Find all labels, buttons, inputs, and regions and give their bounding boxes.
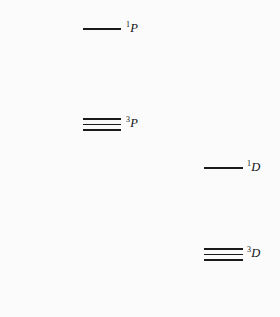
level-line — [83, 129, 121, 131]
term-symbol-label-singlet-p: 1P — [126, 22, 138, 35]
level-line — [83, 118, 121, 120]
term-symbol-label-triplet-p: 3P — [126, 117, 138, 130]
term-symbol-label-triplet-d: 3D — [247, 247, 260, 260]
term-symbol-label-singlet-d: 1D — [247, 161, 260, 174]
level-line — [83, 28, 121, 30]
term-orbital-letter: D — [251, 246, 260, 260]
term-orbital-letter: D — [251, 160, 260, 174]
level-line — [204, 254, 243, 256]
level-line — [204, 248, 243, 250]
level-line — [83, 124, 121, 126]
level-line — [204, 167, 243, 169]
level-line — [204, 259, 243, 261]
term-orbital-letter: P — [130, 21, 138, 35]
term-orbital-letter: P — [130, 116, 138, 130]
energy-level-diagram: 1P3P1D3D — [0, 0, 280, 317]
